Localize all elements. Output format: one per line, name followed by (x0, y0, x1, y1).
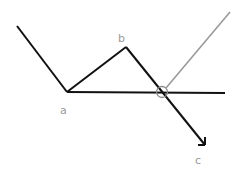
label-c: c (195, 154, 201, 167)
diagram-canvas: a b c (0, 0, 238, 177)
gray-reflected-line (166, 12, 230, 88)
label-b: b (118, 32, 125, 45)
segment-a-b (67, 47, 126, 92)
label-a: a (60, 104, 67, 117)
horizontal-baseline (67, 92, 225, 93)
incoming-segment (17, 26, 67, 92)
